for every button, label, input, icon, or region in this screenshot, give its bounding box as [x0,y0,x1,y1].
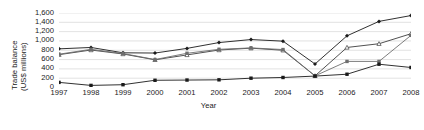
y-tick-label: 1,200 [24,27,54,35]
data-point-marker [153,57,156,60]
series-line [59,64,411,85]
data-point-marker [121,83,124,86]
data-point-marker [409,65,411,68]
data-point-marker [281,75,284,78]
y-tick-label: 800 [24,46,54,54]
data-point-marker [185,46,189,50]
y-tick-label: 1,400 [24,18,54,26]
data-series [59,13,411,65]
plot-svg [59,13,411,88]
y-axis-title-line-1: Trade balance [10,40,19,90]
data-point-marker [217,78,220,81]
data-point-marker [185,51,188,54]
data-point-marker [377,19,381,23]
x-axis-tick-labels: 1997199819992000200120022003200420052006… [59,88,411,100]
y-tick-label: 1,000 [24,36,54,44]
gridlines [59,13,411,78]
data-point-marker [59,52,61,55]
y-tick-label: 200 [24,74,54,82]
data-point-marker [345,72,348,75]
data-point-marker [185,78,188,81]
data-point-marker [249,76,252,79]
data-point-marker [249,46,252,49]
data-point-marker [89,47,92,50]
data-point-marker [153,78,156,81]
data-point-marker [217,47,220,50]
data-point-marker [89,83,92,86]
y-tick-label: 400 [24,64,54,72]
y-tick-label: 600 [24,55,54,63]
data-point-marker [121,51,124,54]
data-series [59,62,411,87]
data-point-marker [59,80,61,83]
data-point-marker [377,62,380,65]
data-point-marker [153,51,157,55]
plot-area [59,13,411,88]
data-point-marker [345,59,348,62]
data-point-marker [409,33,411,36]
data-point-marker [409,13,411,17]
y-tick-label: 1,600 [24,9,54,17]
data-point-marker [281,47,284,50]
y-axis-tick-labels: 02004006008001,0001,2001,4001,600 [22,0,54,130]
data-point-marker [313,74,316,77]
x-tick-label: 2008 [391,88,424,97]
x-axis-title: Year [0,101,417,110]
series-line [59,15,411,63]
series-line [59,33,411,75]
